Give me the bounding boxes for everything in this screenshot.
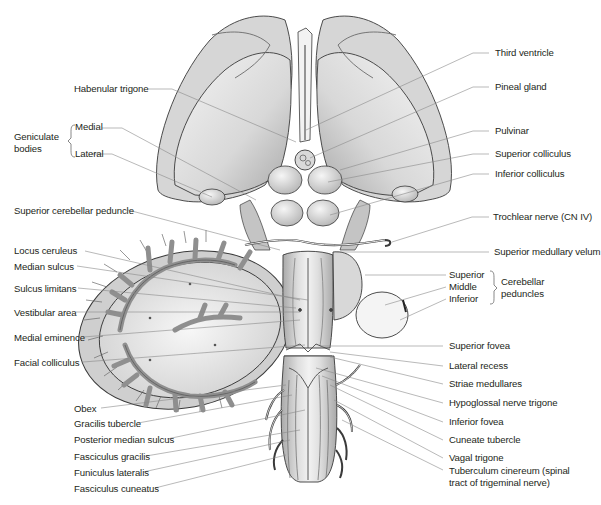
label-cerebellar-peduncles-line1: Cerebellar — [501, 276, 544, 287]
rhomboid-fossa-shape — [283, 251, 333, 356]
medulla-shape — [281, 356, 337, 482]
label-vestibular-area: Vestibular area — [14, 307, 77, 318]
label-sulcus-limitans: Sulcus limitans — [14, 283, 76, 294]
label-funiculus-lateralis: Funiculus lateralis — [74, 467, 149, 478]
label-superior-peduncle: Superior — [449, 269, 484, 280]
geniculate-brace-icon — [68, 125, 75, 157]
label-habenular-trigone: Habenular trigone — [74, 83, 149, 94]
label-pineal-gland: Pineal gland — [495, 81, 547, 92]
label-third-ventricle: Third ventricle — [495, 47, 554, 58]
label-gracilis-tubercle: Gracilis tubercle — [74, 418, 141, 429]
label-superior-medullary-velum: Superior medullary velum — [494, 246, 600, 257]
label-geniculate-bodies-line2: bodies — [14, 143, 42, 154]
label-median-sulcus: Median sulcus — [14, 261, 74, 272]
brainstem-diagram: Habenular trigone Geniculate bodies Medi… — [0, 0, 601, 505]
label-cuneate-tubercle: Cuneate tubercle — [449, 434, 520, 445]
label-superior-fovea: Superior fovea — [449, 340, 510, 351]
cut-peduncle-shape — [356, 292, 408, 338]
colliculi-shapes — [268, 166, 342, 226]
label-lateral-recess: Lateral recess — [449, 360, 508, 371]
peduncle-brace-icon — [490, 271, 497, 304]
label-medial-geniculate: Medial — [75, 121, 103, 132]
label-tuberculum-cinereum-line2: tract of trigeminal nerve) — [449, 477, 550, 488]
label-geniculate-bodies-line1: Geniculate — [14, 131, 59, 142]
label-fasciculus-cuneatus: Fasciculus cuneatus — [74, 483, 159, 494]
cerebellum-section-shape — [62, 229, 309, 431]
label-middle-peduncle: Middle — [449, 281, 477, 292]
label-hypoglossal-nerve-trigone: Hypoglossal nerve trigone — [449, 397, 557, 408]
label-fasciculus-gracilis: Fasciculus gracilis — [74, 451, 150, 462]
label-striae-medullares: Striae medullares — [449, 378, 522, 389]
label-obex: Obex — [74, 403, 97, 414]
label-inferior-peduncle: Inferior — [449, 293, 478, 304]
label-vagal-trigone: Vagal trigone — [449, 452, 504, 463]
label-medial-eminence: Medial eminence — [14, 332, 85, 343]
label-superior-cerebellar-peduncle: Superior cerebellar peduncle — [14, 205, 134, 216]
label-superior-colliculus: Superior colliculus — [495, 148, 571, 159]
label-pulvinar: Pulvinar — [495, 125, 529, 136]
label-cerebellar-peduncles-line2: peduncles — [501, 288, 544, 299]
label-lateral-geniculate: Lateral — [75, 148, 104, 159]
label-trochlear-nerve: Trochlear nerve (CN IV) — [493, 211, 592, 222]
label-inferior-colliculus: Inferior colliculus — [495, 168, 565, 179]
label-posterior-median-sulcus: Posterior median sulcus — [74, 434, 174, 445]
label-tuberculum-cinereum-line1: Tuberculum cinereum (spinal — [449, 465, 570, 476]
label-facial-colliculus: Facial colliculus — [14, 357, 79, 368]
label-locus-ceruleus: Locus ceruleus — [14, 245, 77, 256]
label-inferior-fovea: Inferior fovea — [449, 416, 504, 427]
